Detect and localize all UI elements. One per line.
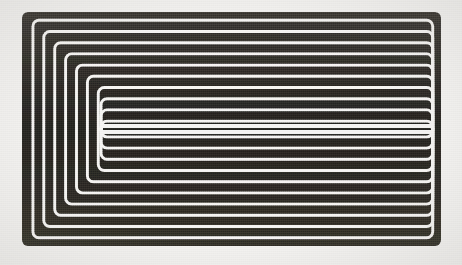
ink-field bbox=[22, 12, 441, 246]
concentric-rectangles-figure bbox=[0, 0, 462, 265]
ring-group bbox=[22, 12, 441, 246]
artwork-canvas: Concentric Nested Rectangle Spiral Abstr… bbox=[0, 0, 462, 265]
